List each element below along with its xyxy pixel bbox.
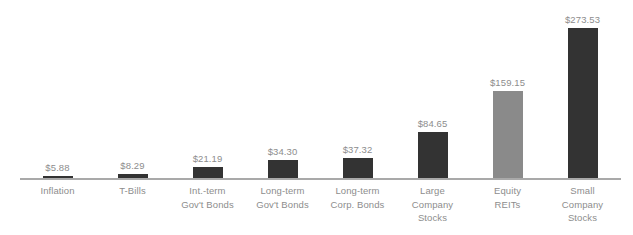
category-label-line: Small [546,184,620,198]
bar-chart: $5.88$8.29$21.19$34.30$37.32$84.65$159.1… [0,0,633,235]
category-label: Int.-termGov't Bonds [171,184,245,211]
category-label-line: Inflation [21,184,95,198]
category-label-line: Long-term [246,184,320,198]
bar[interactable] [418,132,448,179]
bar-value-label: $21.19 [193,153,223,164]
category-label-line: Gov't Bonds [171,198,245,212]
bar-group[interactable]: $5.88 [21,0,95,179]
bar-value-label: $8.29 [120,160,144,171]
bar-group[interactable]: $273.53 [546,0,620,179]
bar-value-label: $84.65 [418,118,448,129]
bar-value-label: $37.32 [343,144,373,155]
category-label-line: Int.-term [171,184,245,198]
category-label-line: Equity [471,184,545,198]
bar-group[interactable]: $159.15 [471,0,545,179]
category-label-line: Stocks [396,211,470,225]
x-axis-baseline [20,178,621,180]
bar[interactable] [568,28,598,179]
bar[interactable] [493,91,523,179]
bar-group[interactable]: $8.29 [96,0,170,179]
category-label: Long-termGov't Bonds [246,184,320,211]
category-label-line: Corp. Bonds [321,198,395,212]
bar[interactable] [268,160,298,179]
bar-value-label: $5.88 [45,162,69,173]
category-label: LargeCompanyStocks [396,184,470,225]
category-label-line: REITs [471,198,545,212]
category-label-line: Gov't Bonds [246,198,320,212]
bar-value-label: $34.30 [268,146,298,157]
chart-plot-area: $5.88$8.29$21.19$34.30$37.32$84.65$159.1… [20,0,620,179]
category-label-line: Long-term [321,184,395,198]
category-label: SmallCompanyStocks [546,184,620,225]
bar[interactable] [343,158,373,179]
bar-value-label: $273.53 [565,14,600,25]
category-label: EquityREITs [471,184,545,211]
category-label: Inflation [21,184,95,198]
bar-group[interactable]: $21.19 [171,0,245,179]
bar-group[interactable]: $37.32 [321,0,395,179]
category-label-line: Stocks [546,211,620,225]
category-label: T-Bills [96,184,170,198]
category-label-line: Company [546,198,620,212]
bar-value-label: $159.15 [490,77,525,88]
bar-group[interactable]: $84.65 [396,0,470,179]
category-label-line: Large [396,184,470,198]
bar-group[interactable]: $34.30 [246,0,320,179]
category-label-line: T-Bills [96,184,170,198]
category-label: Long-termCorp. Bonds [321,184,395,211]
x-axis-category-labels: InflationT-BillsInt.-termGov't BondsLong… [20,184,620,234]
category-label-line: Company [396,198,470,212]
